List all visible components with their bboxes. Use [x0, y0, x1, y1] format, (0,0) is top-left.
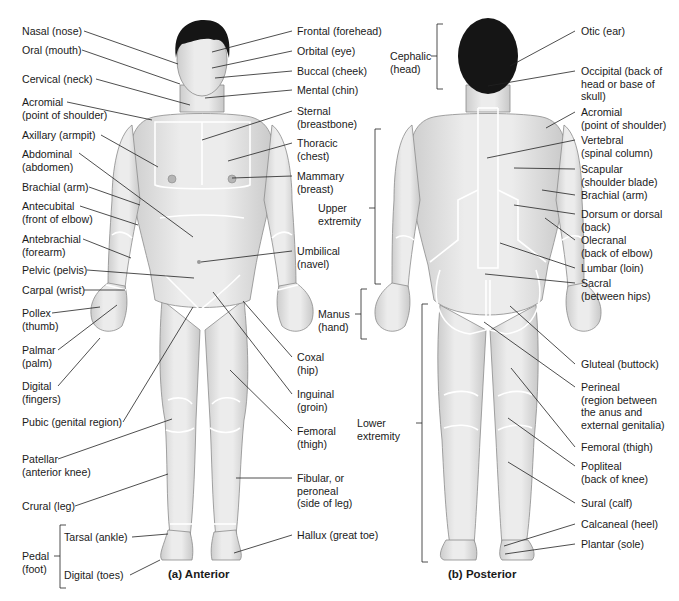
label-mammary: Mammary(breast): [297, 170, 344, 195]
label-digital-toes: Digital (toes): [64, 569, 123, 582]
label-antecubital: Antecubital(front of elbow): [22, 200, 93, 225]
label-cervical: Cervical (neck): [22, 73, 93, 86]
label-frontal: Frontal (forehead): [297, 25, 382, 38]
label-sacral: Sacral(between hips): [581, 277, 651, 302]
label-pedal: Pedal(foot): [22, 550, 49, 575]
label-lower-extremity: Lowerextremity: [357, 417, 400, 442]
label-axillary: Axillary (armpit): [22, 129, 96, 142]
label-brachial-posterior: Brachial (arm): [581, 189, 648, 202]
label-lumbar: Lumbar (loin): [581, 262, 643, 275]
label-vertebral: Vertebral(spinal column): [581, 134, 653, 159]
label-cephalic: Cephalic(head): [390, 50, 431, 75]
label-popliteal: Popliteal(back of knee): [581, 460, 648, 485]
label-coxal: Coxal(hip): [297, 351, 324, 376]
label-oral: Oral (mouth): [22, 44, 81, 57]
label-umbilical: Umbilical(navel): [297, 245, 340, 270]
label-antebrachial: Antebrachial(forearm): [22, 233, 81, 258]
label-nasal: Nasal (nose): [22, 25, 82, 38]
label-manus: Manus(hand): [318, 308, 350, 333]
label-otic: Otic (ear): [581, 25, 625, 38]
label-dorsum: Dorsum or dorsal(back): [581, 208, 662, 233]
label-abdominal: Abdominal(abdomen): [22, 148, 73, 173]
label-upper-extremity: Upperextremity: [318, 202, 361, 227]
label-acromial-posterior: Acromial(point of shoulder): [581, 106, 666, 131]
label-calcaneal: Calcaneal (heel): [581, 518, 658, 531]
label-inguinal: Inguinal(groin): [297, 388, 334, 413]
label-pollex: Pollex(thumb): [22, 307, 59, 332]
label-carpal: Carpal (wrist): [22, 284, 85, 297]
label-mental: Mental (chin): [297, 84, 358, 97]
label-buccal: Buccal (cheek): [297, 65, 367, 78]
label-thoracic: Thoracic(chest): [297, 137, 338, 162]
label-olecranal: Olecranal(back of elbow): [581, 234, 653, 259]
label-sural: Sural (calf): [581, 497, 632, 510]
label-acromial: Acromial(point of shoulder): [22, 96, 107, 121]
label-palmar: Palmar(palm): [22, 344, 56, 369]
label-orbital: Orbital (eye): [297, 45, 355, 58]
label-patellar: Patellar(anterior knee): [22, 453, 91, 478]
label-pelvic: Pelvic (pelvis): [22, 264, 87, 277]
label-plantar: Plantar (sole): [581, 538, 644, 551]
label-femoral-posterior: Femoral (thigh): [581, 441, 653, 454]
posterior-figure: [375, 85, 601, 560]
label-occipital: Occipital (back ofhead or base ofskull): [581, 65, 662, 103]
label-perineal: Perineal(region betweenthe anus andexter…: [581, 381, 665, 431]
label-tarsal: Tarsal (ankle): [64, 531, 128, 544]
label-scapular: Scapular(shoulder blade): [581, 163, 658, 188]
label-digital-fingers: Digital(fingers): [22, 380, 61, 405]
caption-posterior: (b) Posterior: [448, 568, 516, 580]
label-gluteal: Gluteal (buttock): [581, 358, 659, 371]
label-crural: Crural (leg): [22, 500, 75, 513]
label-sternal: Sternal(breastbone): [297, 105, 357, 130]
anterior-figure: [91, 24, 313, 560]
label-hallux: Hallux (great toe): [297, 529, 378, 542]
label-pubic: Pubic (genital region): [22, 416, 122, 429]
label-femoral-anterior: Femoral(thigh): [297, 425, 336, 450]
caption-anterior: (a) Anterior: [168, 568, 230, 580]
label-fibular: Fibular, orperoneal(side of leg): [297, 472, 352, 510]
label-brachial: Brachial (arm): [22, 181, 89, 194]
